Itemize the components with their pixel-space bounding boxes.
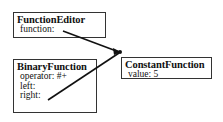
binary-function-box: BinaryFunction operator: #+ left: right: xyxy=(13,59,97,113)
value-field: value: 5 xyxy=(125,70,208,80)
arrowhead-icon xyxy=(113,48,121,55)
function-editor-box: FunctionEditor function: xyxy=(13,12,106,38)
function-field: function: xyxy=(17,25,102,35)
right-field: right: xyxy=(17,91,93,101)
constant-function-box: ConstantFunction value: 5 xyxy=(121,57,212,79)
